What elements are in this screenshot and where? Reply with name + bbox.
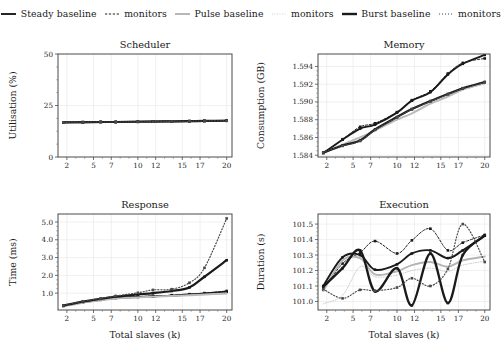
series-marker-response-5 (137, 291, 140, 294)
series-marker-response-4 (152, 292, 155, 295)
series-marker-execution-4 (341, 267, 344, 270)
series-marker-execution-5 (483, 261, 486, 264)
series-marker-scheduler-5 (152, 120, 155, 123)
series-marker-scheduler-5 (137, 120, 140, 123)
series-marker-execution-4 (322, 285, 325, 288)
series-marker-execution-4 (411, 304, 414, 307)
xtick-label-scheduler-4: 12 (151, 161, 160, 170)
ytick-label-response-0: 1.0 (42, 289, 54, 298)
chart-frame-memory (318, 54, 490, 157)
ytick-label-response-3: 4.0 (42, 235, 54, 244)
xtick-label-memory-3: 10 (392, 161, 402, 170)
xtick-label-scheduler-2: 7 (109, 161, 114, 170)
legend-label-steady-monitors: monitors (124, 8, 167, 19)
xtick-label-memory-6: 17 (454, 161, 464, 170)
series-line-memory-3 (323, 84, 484, 153)
chart-title-memory: Memory (383, 39, 425, 50)
series-marker-memory-5 (429, 100, 432, 103)
series-marker-execution-0 (359, 254, 362, 257)
series-marker-execution-0 (411, 252, 414, 255)
xtick-label-response-1: 5 (91, 314, 96, 323)
series-marker-memory-5 (374, 129, 377, 132)
ytick-label-execution-0: 101.0 (292, 297, 313, 306)
series-marker-memory-1 (374, 122, 377, 125)
series-marker-execution-4 (429, 252, 432, 255)
series-marker-scheduler-5 (170, 120, 173, 123)
ytick-label-memory-1: 1.586 (292, 133, 313, 142)
series-marker-memory-1 (483, 57, 486, 60)
xlabel-execution: Total slaves (k) (369, 329, 440, 340)
xtick-label-scheduler-7: 20 (222, 161, 232, 170)
series-marker-memory-5 (341, 145, 344, 148)
series-marker-execution-5 (359, 289, 362, 292)
series-marker-response-5 (99, 297, 102, 300)
legend-line-steady-monitors (104, 9, 121, 19)
ytick-label-response-4: 5.0 (42, 218, 54, 227)
legend-entry-burst-baseline[interactable]: Burst baseline (341, 8, 431, 19)
xtick-label-execution-1: 5 (351, 314, 356, 323)
xtick-label-response-2: 7 (109, 314, 114, 323)
series-layer-response (62, 217, 228, 307)
series-marker-response-4 (225, 259, 228, 262)
series-marker-memory-1 (411, 99, 414, 102)
legend-line-pulse-baseline (174, 9, 191, 19)
legend-entry-burst-monitors[interactable]: monitors (438, 8, 501, 19)
series-marker-response-5 (225, 217, 228, 220)
xtick-label-scheduler-0: 2 (65, 161, 70, 170)
legend-line-burst-baseline (341, 9, 358, 19)
ylabel-scheduler: Utilisation (%) (7, 71, 18, 139)
chart-frame-execution (318, 214, 490, 310)
legend-entry-pulse-monitors[interactable]: monitors (271, 8, 334, 19)
subplot-scheduler: Scheduler025502571012151720Utilisation (… (0, 30, 250, 190)
series-marker-execution-5 (447, 268, 450, 271)
series-marker-memory-1 (429, 90, 432, 93)
series-layer-execution (322, 223, 486, 307)
series-marker-execution-5 (396, 286, 399, 289)
series-marker-response-5 (114, 295, 117, 298)
xtick-label-execution-7: 20 (480, 314, 490, 323)
series-marker-response-4 (203, 275, 206, 278)
xtick-label-memory-0: 2 (324, 161, 329, 170)
subplot-grid: Scheduler025502571012151720Utilisation (… (0, 30, 501, 349)
legend-label-pulse-baseline: Pulse baseline (194, 8, 263, 19)
legend-line-burst-monitors (438, 9, 455, 19)
ytick-label-response-1: 2.0 (42, 271, 54, 280)
chart-scheduler: Scheduler025502571012151720Utilisation (… (0, 30, 250, 190)
ytick-label-memory-5: 1.594 (292, 62, 313, 71)
series-marker-memory-5 (396, 116, 399, 119)
chart-memory: Memory1.5841.5861.5881.5901.5921.5942571… (250, 30, 501, 190)
series-marker-response-5 (152, 289, 155, 292)
xtick-label-memory-7: 20 (480, 161, 490, 170)
series-marker-scheduler-5 (188, 120, 191, 123)
legend-entry-pulse-baseline[interactable]: Pulse baseline (174, 8, 264, 19)
ytick-label-memory-4: 1.592 (292, 80, 313, 89)
xtick-label-memory-5: 15 (436, 161, 446, 170)
series-marker-memory-1 (359, 126, 362, 129)
legend-label-burst-monitors: monitors (458, 8, 501, 19)
series-marker-execution-4 (483, 234, 486, 237)
series-marker-scheduler-5 (99, 121, 102, 124)
series-marker-scheduler-5 (203, 120, 206, 123)
legend-entry-steady-monitors[interactable]: monitors (104, 8, 167, 19)
series-marker-execution-4 (447, 302, 450, 305)
series-line-memory-2 (323, 83, 484, 153)
xtick-label-execution-3: 10 (392, 314, 402, 323)
series-marker-execution-1 (461, 241, 464, 244)
series-marker-memory-5 (483, 81, 486, 84)
series-marker-execution-4 (461, 254, 464, 257)
chart-title-scheduler: Scheduler (120, 39, 171, 50)
series-marker-execution-0 (447, 257, 450, 260)
ytick-label-execution-1: 101.1 (292, 282, 313, 291)
series-marker-response-4 (188, 286, 191, 289)
series-marker-scheduler-5 (114, 121, 117, 124)
ylabel-response: Time (ms) (7, 238, 18, 285)
series-marker-execution-5 (322, 288, 325, 291)
xtick-label-memory-1: 5 (351, 161, 356, 170)
xtick-label-response-7: 20 (222, 314, 232, 323)
xtick-label-execution-2: 7 (368, 314, 373, 323)
legend-entry-steady-baseline[interactable]: Steady baseline (0, 8, 97, 19)
xtick-label-response-6: 17 (195, 314, 205, 323)
series-marker-memory-5 (411, 108, 414, 111)
ytick-label-memory-0: 1.584 (292, 151, 313, 160)
series-marker-execution-0 (461, 249, 464, 252)
